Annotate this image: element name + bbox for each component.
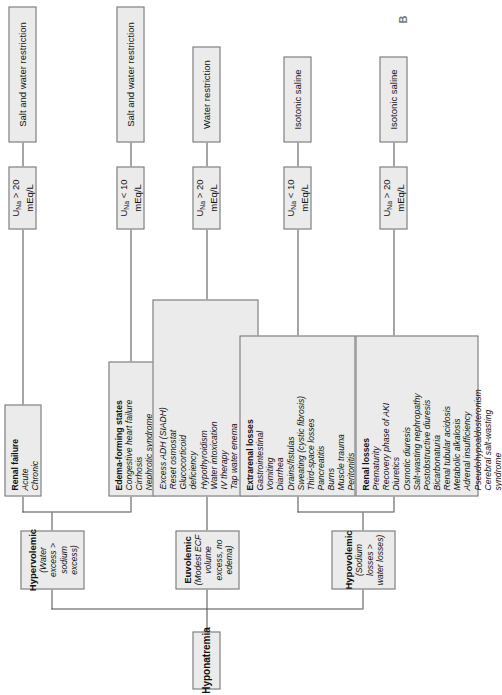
list-item: Burns xyxy=(325,468,335,490)
list-item: Glucocorticoid deficiency xyxy=(177,397,197,489)
node-tx-renal-failure[interactable]: Salt and water restriction xyxy=(8,6,36,142)
node-una-renal-failure[interactable]: UNa > 20 mEq/L xyxy=(8,166,36,229)
tx-renal-failure-label: Salt and water restriction xyxy=(16,22,27,127)
list-item: Renal tubular acidosis xyxy=(441,405,451,490)
list-item: Recovery phase of AKI xyxy=(380,402,390,490)
connector-renallosses-to-una xyxy=(393,229,394,335)
node-euvolemic-subtitle: (Modest ECF volume excess, no edema) xyxy=(192,533,233,586)
connector-to-renal-failure xyxy=(22,496,23,512)
list-item: Salt-wasting nephropathy xyxy=(411,393,421,490)
connector-extrarenal-to-una xyxy=(297,229,298,335)
list-item: Peritonitis xyxy=(345,452,355,490)
node-edema-forming-header: Edema-forming states xyxy=(113,400,123,490)
list-item: Pancreatitis xyxy=(315,445,325,490)
list-item: Cerebral salt-wasting syndrome xyxy=(482,398,502,490)
connector-una3-to-tx xyxy=(206,142,207,166)
list-item: Hypothyroidism xyxy=(198,430,208,489)
list-item: Water intoxication xyxy=(208,421,218,489)
node-una-extrarenal[interactable]: UNa < 10 mEq/L xyxy=(283,166,311,229)
connector-una4-to-tx xyxy=(297,142,298,166)
node-renal-losses[interactable]: Renal losses Prematurity Recovery phase … xyxy=(355,335,478,496)
connector-spine-to-hypovolemic xyxy=(362,589,363,609)
connector-una5-to-tx xyxy=(393,142,394,166)
una-subscript: Na xyxy=(290,200,297,209)
connector-to-renal-losses xyxy=(393,496,394,512)
connector-edema-to-una xyxy=(130,229,131,361)
connector-to-edema-forming xyxy=(130,496,131,512)
node-hypervolemic-title: Hypervolemic xyxy=(26,528,37,590)
list-item: Gastrointestinal xyxy=(254,430,264,490)
list-item: Diuretics xyxy=(390,457,400,490)
list-item: Prematurity xyxy=(370,446,380,490)
una-renal-failure-label: UNa > 20 mEq/L xyxy=(9,167,34,228)
list-item: Tap water enema xyxy=(228,423,238,489)
node-hypovolemic-subtitle: (Sodium losses > water losses) xyxy=(353,533,383,586)
node-hypervolemic[interactable]: Hypervolemic (Water excess > sodium exce… xyxy=(20,530,84,589)
node-renal-failure[interactable]: Renal failure Acute Chronic xyxy=(4,404,41,496)
connector-hypervolemic-spine xyxy=(22,511,130,512)
una-subscript: Na xyxy=(199,200,206,209)
connector-euvolemic-out xyxy=(206,496,207,530)
node-hyponatremia-title: Hyponatremia xyxy=(200,627,212,694)
una-subscript: Na xyxy=(123,200,130,209)
una-euvolemic-label: UNa > 20 mEq/L xyxy=(193,167,218,228)
node-euvolemic-title: Euvolemic xyxy=(181,536,192,584)
connector-hypovolemic-out xyxy=(362,512,363,530)
node-euvolemic[interactable]: Euvolemic (Modest ECF volume excess, no … xyxy=(175,530,239,589)
list-item: Metabolic alkalosis xyxy=(451,418,461,490)
node-una-renal-losses[interactable]: UNa > 20 mEq/L xyxy=(379,166,407,229)
tx-euvolemic-label: Water restriction xyxy=(200,60,211,129)
node-una-euvolemic[interactable]: UNa > 20 mEq/L xyxy=(192,166,220,229)
node-tx-edema-forming[interactable]: Salt and water restriction xyxy=(116,6,144,142)
node-tx-renal-losses[interactable]: Isotonic saline xyxy=(379,56,407,142)
list-item: Third-space losses xyxy=(305,418,315,490)
node-hypovolemic-title: Hypovolemic xyxy=(342,530,353,589)
list-item: Pseudohypoaldosteronism xyxy=(472,389,482,490)
node-extrarenal-losses-header: Extrarenal losses xyxy=(244,419,254,490)
list-item: Postobstructive diuresis xyxy=(421,399,431,490)
connector-to-extrarenal xyxy=(297,496,298,512)
node-tx-euvolemic[interactable]: Water restriction xyxy=(192,46,220,142)
node-edema-forming-states[interactable]: Edema-forming states Congestive heart fa… xyxy=(108,361,155,496)
node-extrarenal-losses[interactable]: Extrarenal losses Gastrointestinal Vomit… xyxy=(239,335,355,496)
node-hyponatremia[interactable]: Hyponatremia xyxy=(192,631,220,689)
connector-euvolemic-to-una xyxy=(206,229,207,299)
tx-edema-forming-label: Salt and water restriction xyxy=(124,22,135,127)
connector-spine-to-euvolemic xyxy=(206,589,207,609)
node-renal-failure-header: Renal failure xyxy=(9,438,19,490)
list-item: Muscle trauma xyxy=(335,434,345,490)
una-renal-losses-label: UNa > 20 mEq/L xyxy=(380,167,405,228)
connector-renalfailure-to-una xyxy=(22,229,23,404)
una-edema-forming-label: UNa < 10 mEq/L xyxy=(117,167,142,228)
list-item: Adrenal insufficiency xyxy=(461,411,471,490)
node-tx-extrarenal[interactable]: Isotonic saline xyxy=(283,56,311,142)
tx-renal-losses-label: Isotonic saline xyxy=(387,69,398,129)
panel-letter: B xyxy=(396,15,408,23)
list-item: Reset osmostat xyxy=(167,429,177,489)
list-item: Osmotic diuresis xyxy=(401,426,411,490)
connector-spine-to-hypervolemic xyxy=(51,589,52,609)
node-renal-losses-header: Renal losses xyxy=(360,437,370,490)
connector-una2-to-tx xyxy=(130,142,131,166)
list-item: Vomiting xyxy=(264,457,274,490)
una-subscript: Na xyxy=(15,200,22,209)
list-item: Acute xyxy=(19,468,29,490)
list-item: IV therapy xyxy=(218,450,228,489)
connector-hypovolemic-spine xyxy=(297,511,393,512)
list-item: Drains/fistulas xyxy=(285,436,295,490)
una-extrarenal-label: UNa < 10 mEq/L xyxy=(284,167,309,228)
node-una-edema-forming[interactable]: UNa < 10 mEq/L xyxy=(116,166,144,229)
list-item: Cirrhosis xyxy=(133,456,143,490)
list-item: Congestive heart failure xyxy=(123,399,133,490)
node-hypovolemic[interactable]: Hypovolemic (Sodium losses > water losse… xyxy=(331,530,395,589)
connector-una1-to-tx xyxy=(22,142,23,166)
list-item: Bicarbonaturia xyxy=(431,435,441,490)
list-item: Chronic xyxy=(29,460,39,490)
una-subscript: Na xyxy=(386,200,393,209)
tx-extrarenal-label: Isotonic saline xyxy=(291,69,302,129)
list-item: Excess ADH (SIADH) xyxy=(157,407,167,489)
list-item: Diarrhea xyxy=(274,457,284,490)
node-hypervolemic-subtitle: (Water excess > sodium excess) xyxy=(37,533,78,586)
